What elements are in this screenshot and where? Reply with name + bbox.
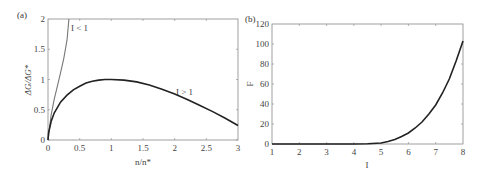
annotation-i-less-than-1: I < 1 [71, 23, 88, 33]
ytick-label: 120 [256, 19, 270, 29]
xtick-label: 2 [297, 147, 302, 157]
panel-a-xlabel: n/n* [135, 157, 152, 167]
panel-a-ytick-labels: 0 0.5 1 1.5 2 [34, 14, 46, 145]
ytick-label: 2 [41, 14, 46, 24]
panel-b-xticks [299, 24, 435, 144]
xtick-label: 5 [379, 147, 384, 157]
annotation-i-greater-than-1: I > 1 [176, 87, 193, 97]
panel-a-ylabel: ΔG/ΔG* [23, 64, 33, 96]
xtick-label: 2 [172, 143, 177, 153]
xtick-label: 1 [270, 147, 275, 157]
ytick-label: 80 [260, 59, 270, 69]
panel-b-label: (b) [245, 14, 256, 24]
panel-b-xtick-labels: 1 2 3 4 5 6 7 8 [270, 147, 466, 157]
panel-b-ytick-labels: 0 20 40 60 80 100 120 [256, 19, 270, 149]
xtick-label: 8 [461, 147, 466, 157]
xtick-label: 0.5 [74, 143, 86, 153]
ytick-label: 0 [265, 139, 270, 149]
figure: (a) 0 0.5 1 1.5 2 0 0.5 1 [0, 0, 486, 171]
panel-b-xlabel: I [366, 160, 369, 170]
series-f [272, 41, 463, 144]
panel-b-frame [272, 24, 463, 144]
xtick-label: 4 [352, 147, 357, 157]
xtick-label: 6 [406, 147, 411, 157]
panel-a-yticks [48, 49, 238, 140]
xtick-label: 1.5 [137, 143, 149, 153]
panel-a-label: (a) [17, 10, 27, 20]
ytick-label: 0 [41, 135, 46, 145]
ytick-label: 20 [260, 119, 270, 129]
panel-b-yticks [272, 44, 463, 124]
ytick-label: 0.5 [34, 105, 46, 115]
panel-a-xtick-labels: 0 0.5 1 1.5 2 2.5 3 [46, 143, 241, 153]
ytick-label: 100 [256, 39, 270, 49]
ytick-label: 60 [260, 79, 270, 89]
ytick-label: 1.5 [34, 44, 46, 54]
panel-a-frame [48, 19, 238, 140]
series-i-greater-than-1 [48, 80, 238, 141]
xtick-label: 3 [324, 147, 329, 157]
xtick-label: 1 [109, 143, 114, 153]
xtick-label: 2.5 [201, 143, 213, 153]
xtick-label: 3 [236, 143, 241, 153]
panel-b-ylabel: F [245, 81, 255, 86]
xtick-label: 0 [46, 143, 51, 153]
panel-a: (a) 0 0.5 1 1.5 2 0 0.5 1 [17, 10, 241, 167]
panel-b: (b) 0 20 40 60 80 100 120 [245, 14, 466, 170]
ytick-label: 1 [41, 75, 46, 85]
ytick-label: 40 [260, 99, 270, 109]
xtick-label: 7 [433, 147, 438, 157]
